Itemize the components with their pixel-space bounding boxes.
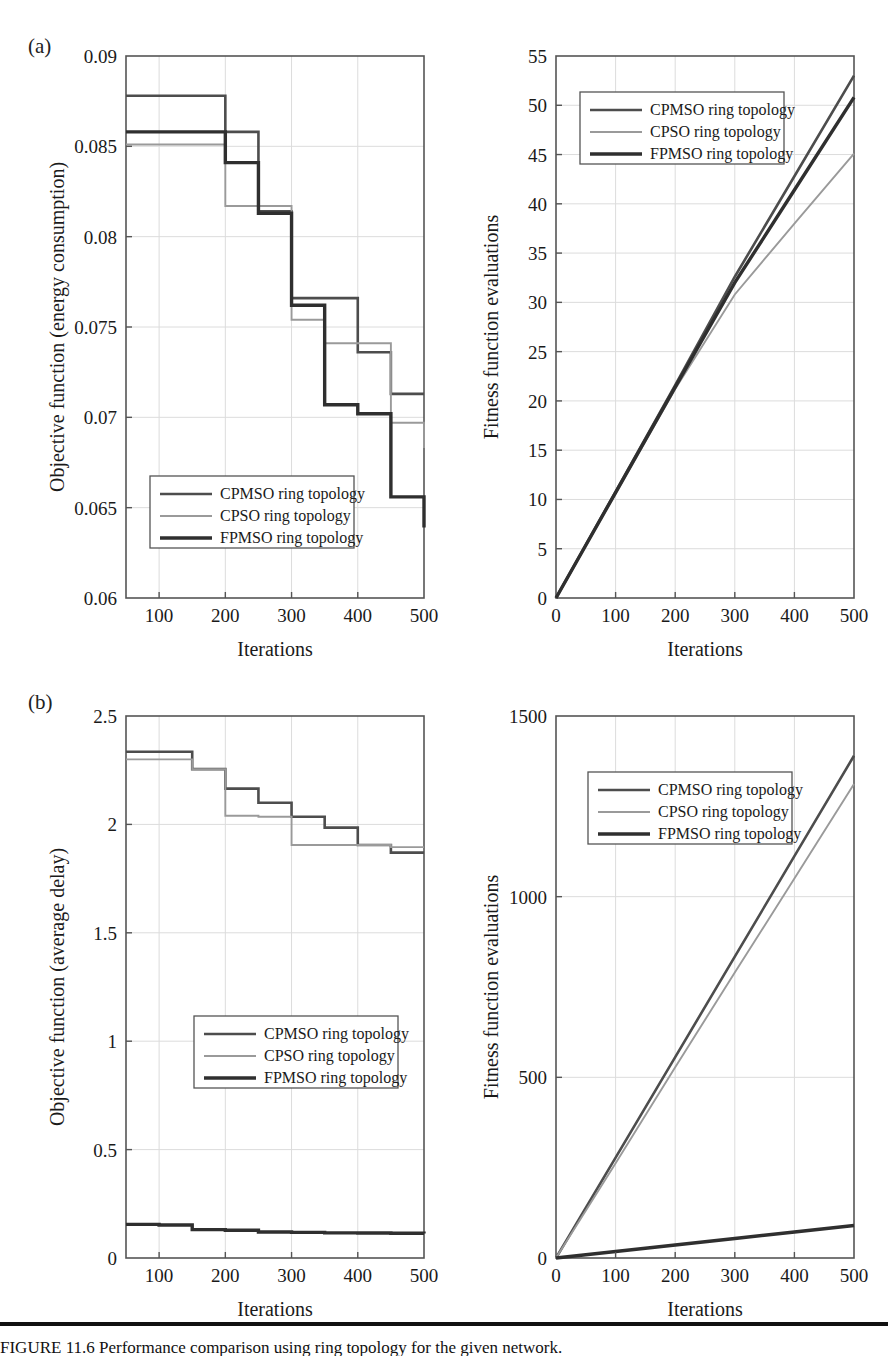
tick-label-y: 1	[108, 1031, 118, 1052]
chart-svg-a-right: 01002003004005000510152025303540455055It…	[444, 20, 888, 670]
legend-label-fpmso: FPMSO ring topology	[658, 825, 801, 843]
chart-panel-a-left: 1002003004005000.060.0650.070.0750.080.0…	[0, 20, 444, 670]
axis-title-x: Iterations	[237, 1298, 313, 1320]
tick-label-x: 400	[780, 605, 809, 626]
axis-title-y: Fitness function evaluations	[480, 215, 502, 440]
legend-label-cpso: CPSO ring topology	[658, 803, 789, 821]
axis-title-x: Iterations	[667, 1298, 743, 1320]
data-line-cpmso	[126, 752, 424, 853]
data-line-fpmso	[126, 1224, 424, 1233]
tick-label-x: 400	[780, 1265, 809, 1286]
tick-label-x: 300	[721, 1265, 750, 1286]
data-line-fpmso	[126, 132, 424, 528]
tick-label-x: 100	[145, 605, 174, 626]
tick-label-y: 35	[528, 243, 547, 264]
data-line-fpmso	[556, 1225, 854, 1258]
tick-label-x: 0	[551, 605, 561, 626]
tick-label-x: 200	[661, 1265, 690, 1286]
chart-panel-b-left: 10020030040050000.511.522.5IterationsObj…	[0, 676, 444, 1326]
tick-label-y: 0.075	[74, 317, 117, 338]
legend-label-cpso: CPSO ring topology	[220, 507, 351, 525]
chart-svg-b-right: 0100200300400500050010001500IterationsFi…	[444, 676, 888, 1326]
gridlines-b-left	[126, 716, 424, 1258]
chart-panel-b-right: 0100200300400500050010001500IterationsFi…	[444, 676, 888, 1326]
figure-caption: FIGURE 11.6 Performance comparison using…	[0, 1338, 888, 1356]
tick-label-x: 100	[601, 605, 630, 626]
data-line-fpmso	[556, 97, 854, 598]
axis-title-x: Iterations	[237, 638, 313, 660]
tick-label-y: 30	[528, 292, 547, 313]
data-line-cpmso	[126, 96, 424, 394]
tick-label-x: 500	[410, 1265, 439, 1286]
figure-container: (a) (b) 1002003004005000.060.0650.070.07…	[0, 0, 888, 1356]
tick-label-y: 25	[528, 342, 547, 363]
legend-label-cpmso: CPMSO ring topology	[264, 1025, 409, 1043]
chart-panel-a-right: 01002003004005000510152025303540455055It…	[444, 20, 888, 670]
legend-label-fpmso: FPMSO ring topology	[220, 529, 363, 547]
tick-label-y: 0.5	[93, 1140, 117, 1161]
tick-label-y: 0.065	[74, 498, 117, 519]
tick-label-x: 500	[410, 605, 439, 626]
tick-label-y: 1000	[509, 887, 547, 908]
data-line-cpso	[556, 154, 854, 598]
axis-title-y: Objective function (energy consumption)	[46, 162, 69, 492]
tick-label-y: 500	[519, 1067, 548, 1088]
tick-label-x: 0	[551, 1265, 561, 1286]
tick-label-y: 55	[528, 46, 547, 67]
tick-label-x: 100	[601, 1265, 630, 1286]
tick-label-y: 1500	[509, 706, 547, 727]
chart-svg-b-left: 10020030040050000.511.522.5IterationsObj…	[0, 676, 444, 1326]
tick-label-y: 0	[538, 1248, 548, 1269]
tick-label-x: 300	[277, 605, 306, 626]
tick-label-y: 50	[528, 95, 547, 116]
tick-label-y: 0	[108, 1248, 118, 1269]
axis-title-y: Fitness function evaluations	[480, 875, 502, 1100]
tick-label-x: 300	[277, 1265, 306, 1286]
tick-label-x: 200	[211, 1265, 240, 1286]
chart-svg-a-left: 1002003004005000.060.0650.070.0750.080.0…	[0, 20, 444, 670]
tick-label-y: 45	[528, 145, 547, 166]
tick-label-y: 0.06	[84, 588, 117, 609]
data-line-cpso	[126, 145, 424, 449]
tick-label-y: 10	[528, 489, 547, 510]
legend-label-fpmso: FPMSO ring topology	[650, 145, 793, 163]
legend-a-left: CPMSO ring topologyCPSO ring topologyFPM…	[150, 476, 365, 548]
tick-label-y: 15	[528, 440, 547, 461]
tick-label-x: 500	[840, 605, 869, 626]
tick-label-y: 1.5	[93, 923, 117, 944]
legend-b-left: CPMSO ring topologyCPSO ring topologyFPM…	[194, 1016, 409, 1088]
plot-frame	[126, 716, 424, 1258]
caption-divider	[0, 1322, 888, 1326]
tick-label-y: 0.07	[84, 407, 117, 428]
tick-label-y: 40	[528, 194, 547, 215]
tick-label-y: 0.085	[74, 136, 117, 157]
legend-label-cpso: CPSO ring topology	[264, 1047, 395, 1065]
axis-title-x: Iterations	[667, 638, 743, 660]
legend-b-right: CPMSO ring topologyCPSO ring topologyFPM…	[588, 772, 803, 844]
tick-label-y: 5	[538, 539, 548, 560]
legend-label-fpmso: FPMSO ring topology	[264, 1069, 407, 1087]
tick-label-x: 100	[145, 1265, 174, 1286]
tick-label-x: 200	[661, 605, 690, 626]
tick-label-y: 0.08	[84, 227, 117, 248]
legend-a-right: CPMSO ring topologyCPSO ring topologyFPM…	[580, 92, 795, 164]
legend-label-cpmso: CPMSO ring topology	[220, 485, 365, 503]
tick-label-x: 200	[211, 605, 240, 626]
tick-label-y: 0.09	[84, 46, 117, 67]
tick-label-x: 500	[840, 1265, 869, 1286]
tick-label-y: 0	[538, 588, 548, 609]
tick-label-x: 300	[721, 605, 750, 626]
legend-label-cpmso: CPMSO ring topology	[650, 101, 795, 119]
legend-label-cpmso: CPMSO ring topology	[658, 781, 803, 799]
legend-label-cpso: CPSO ring topology	[650, 123, 781, 141]
data-line-cpso	[556, 784, 854, 1258]
tick-label-x: 400	[344, 605, 373, 626]
tick-label-x: 400	[344, 1265, 373, 1286]
tick-label-y: 20	[528, 391, 547, 412]
axis-title-y: Objective function (average delay)	[46, 848, 69, 1126]
tick-label-y: 2	[108, 814, 118, 835]
tick-label-y: 2.5	[93, 706, 117, 727]
